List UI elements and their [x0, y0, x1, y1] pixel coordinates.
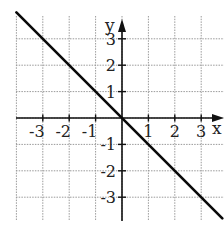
x-tick-label: -1 — [82, 122, 98, 141]
y-tick-label: -1 — [100, 135, 116, 154]
function-line — [16, 12, 222, 218]
y-tick-label: 2 — [106, 56, 116, 75]
x-tick-label: 3 — [196, 122, 206, 141]
y-axis-arrow-icon — [118, 19, 126, 32]
coordinate-plane: x y -3-2-1123321-1-2-3 — [0, 0, 224, 235]
x-tick-label: 1 — [143, 122, 153, 141]
x-tick-label: -2 — [55, 122, 71, 141]
y-tick-label: 1 — [106, 83, 116, 102]
series — [16, 12, 222, 218]
x-tick-label: 2 — [170, 122, 180, 141]
y-tick-label: 3 — [106, 30, 116, 49]
x-tick-label: -3 — [29, 122, 45, 141]
y-tick-label: -2 — [100, 162, 116, 181]
x-axis-label: x — [212, 118, 222, 138]
y-tick-label: -3 — [100, 188, 116, 207]
